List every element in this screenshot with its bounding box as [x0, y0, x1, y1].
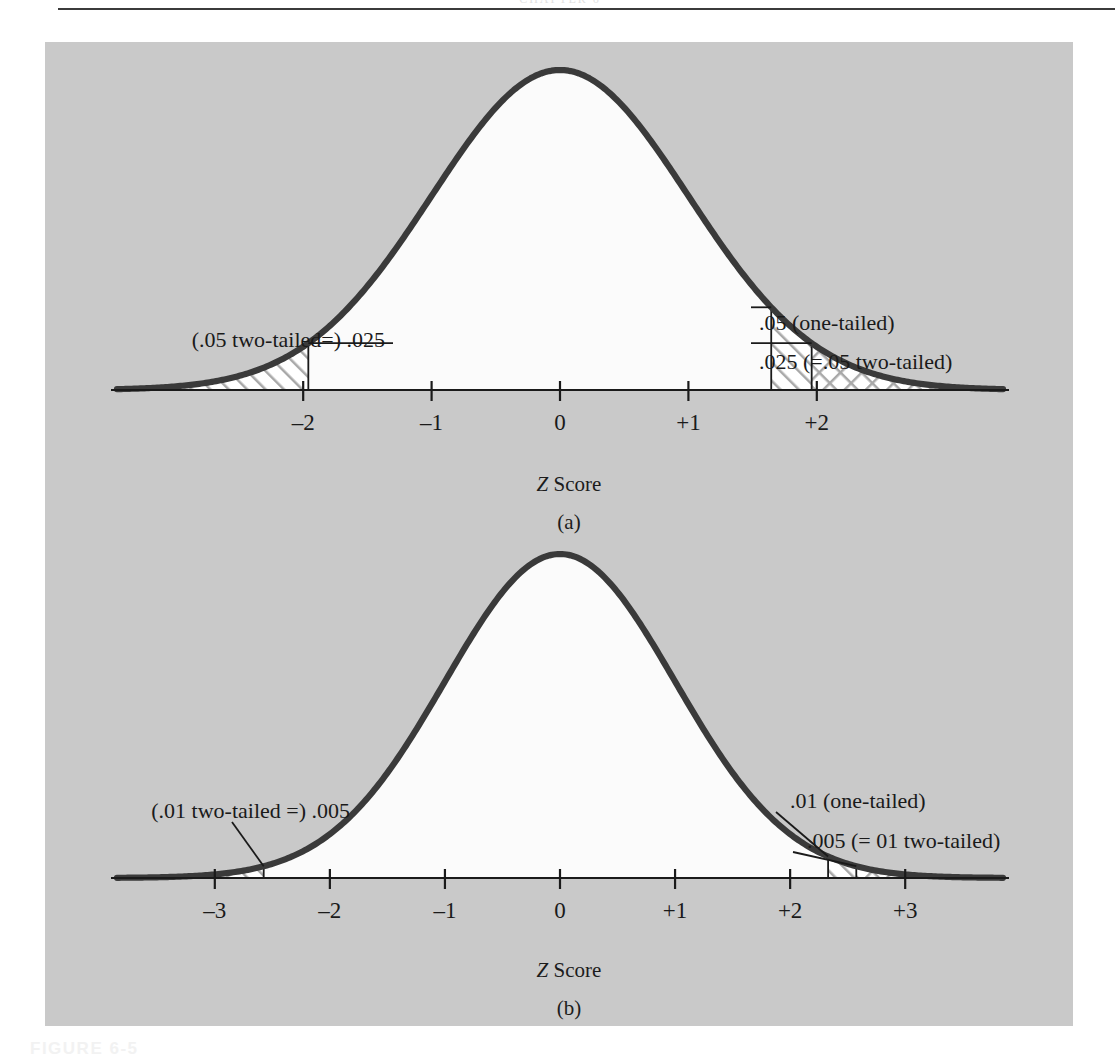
panel-b-xaxis-label: Z Score: [509, 958, 629, 983]
running-head: CHAPTER 6: [430, 0, 690, 6]
tick-label-a-2: 0: [554, 410, 566, 435]
tick-label-b-1: –2: [317, 898, 341, 923]
tick-label-b-2: –1: [432, 898, 456, 923]
panel-a-xaxis-label-z: Z: [537, 472, 549, 496]
tick-label-b-0: –3: [202, 898, 226, 923]
annotation-b-0: (.01 two-tailed =) .005: [151, 798, 350, 823]
tick-label-b-4: +1: [663, 898, 687, 923]
annotation-a-2: .025 (=.05 two-tailed): [759, 349, 952, 374]
annotation-b-2: .005 (= 01 two-tailed): [807, 828, 1000, 853]
tick-label-b-3: 0: [554, 898, 566, 923]
annotation-a-0: (.05 two-tailed=) .025: [192, 327, 385, 352]
panel-a-plot: –2–10+1+2(.05 two-tailed=) .025.05 (one-…: [45, 42, 1073, 462]
annotation-a-1: .05 (one-tailed): [759, 310, 895, 335]
figure-caption: FIGURE 6-5: [30, 1039, 139, 1056]
figure-gray-panel: –2–10+1+2(.05 two-tailed=) .025.05 (one-…: [45, 42, 1073, 1026]
tick-label-b-6: +3: [893, 898, 917, 923]
panel-b-caption: (b): [529, 996, 609, 1021]
page-top-rule: [58, 8, 1115, 10]
tick-label-a-0: –2: [291, 410, 315, 435]
leader-line-b-0: [232, 822, 264, 866]
tick-label-a-4: +2: [805, 410, 829, 435]
panel-b-plot: –3–2–10+1+2+3(.01 two-tailed =) .005.01 …: [45, 530, 1073, 950]
tick-label-a-1: –1: [419, 410, 443, 435]
panel-a-xaxis-label: Z Score: [509, 472, 629, 497]
panel-a: –2–10+1+2(.05 two-tailed=) .025.05 (one-…: [45, 42, 1073, 542]
panel-b-xaxis-label-score: Score: [548, 958, 601, 982]
tick-label-b-5: +2: [778, 898, 802, 923]
panel-b: –3–2–10+1+2+3(.01 two-tailed =) .005.01 …: [45, 530, 1073, 1026]
panel-b-xaxis-label-z: Z: [537, 958, 549, 982]
panel-a-xaxis-label-score: Score: [548, 472, 601, 496]
annotation-b-1: .01 (one-tailed): [790, 788, 926, 813]
tick-label-a-3: +1: [676, 410, 700, 435]
